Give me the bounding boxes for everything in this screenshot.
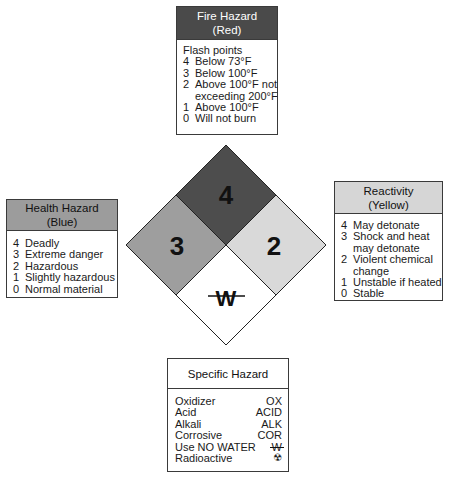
fire-hazard-subtitle: (Red) <box>177 23 277 37</box>
special-rating: W <box>216 286 237 311</box>
health-hazard-title: Health Hazard <box>7 201 117 215</box>
specific-hazard-legend: Specific Hazard OxidizerOX AcidACID Alka… <box>167 358 289 472</box>
health-hazard-legend: Health Hazard (Blue) 4Deadly 3Extreme da… <box>6 199 118 298</box>
reactivity-header: Reactivity (Yellow) <box>335 182 442 214</box>
fire-hazard-legend: Fire Hazard (Red) Flash points 4Below 73… <box>176 6 278 135</box>
specific-hazard-list: OxidizerOX AcidACID AlkaliALK CorrosiveC… <box>168 389 288 464</box>
list-item: 0Will not burn <box>183 113 277 124</box>
health-rating: 3 <box>170 231 184 261</box>
reactivity-legend: Reactivity (Yellow) 4May detonate 3Shock… <box>334 181 443 301</box>
health-hazard-subtitle: (Blue) <box>7 215 117 229</box>
list-item: CorrosiveCOR <box>175 430 282 441</box>
reactivity-list: 4May detonate 3Shock and heatmay detonat… <box>335 214 442 300</box>
reactivity-rating: 2 <box>267 231 281 261</box>
health-hazard-list: 4Deadly 3Extreme danger 2Hazardous 1Slig… <box>7 231 117 295</box>
radiation-icon: ☢ <box>273 453 282 464</box>
fire-hazard-title: Fire Hazard <box>177 9 277 23</box>
fire-hazard-header: Fire Hazard (Red) <box>177 7 277 40</box>
list-item: 0Normal material <box>13 284 117 295</box>
list-item: 2Violent chemicalchange <box>341 254 442 277</box>
no-water-icon: W <box>272 442 282 453</box>
specific-hazard-title: Specific Hazard <box>168 367 288 381</box>
list-item: 1Slightly hazardous <box>13 272 117 283</box>
health-hazard-header: Health Hazard (Blue) <box>7 200 117 231</box>
fire-hazard-list: Flash points 4Below 73°F 3Below 100°F 2A… <box>177 40 277 125</box>
list-item: 0Stable <box>341 288 442 299</box>
specific-hazard-header: Specific Hazard <box>168 359 288 389</box>
reactivity-title: Reactivity <box>335 184 442 198</box>
reactivity-subtitle: (Yellow) <box>335 198 442 212</box>
list-item: Radioactive☢ <box>175 453 282 464</box>
fire-rating: 4 <box>219 180 234 210</box>
list-item: 2Above 100°F notexceeding 200°F <box>183 79 277 102</box>
list-item: 3Shock and heatmay detonate <box>341 231 442 254</box>
